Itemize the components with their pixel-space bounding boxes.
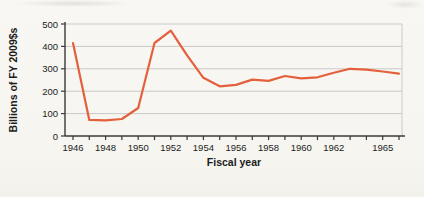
y-tick-label-200: 200 — [42, 86, 58, 97]
x-axis-tick-labels: 1946194819501952195419561958196019621965 — [62, 142, 393, 153]
x-tick-label-1960: 1960 — [291, 142, 312, 153]
data-line — [73, 31, 399, 121]
x-tick-label-1965: 1965 — [372, 142, 393, 153]
scanned-figure-page: 0100200300400500 19461948195019521954195… — [0, 0, 424, 197]
y-tick-label-300: 300 — [42, 63, 58, 74]
x-tick-label-1958: 1958 — [258, 142, 279, 153]
x-tick-label-1950: 1950 — [128, 142, 149, 153]
x-tick-label-1948: 1948 — [95, 142, 116, 153]
line-chart: 0100200300400500 19461948195019521954195… — [0, 0, 424, 197]
y-axis-tick-labels: 0100200300400500 — [42, 19, 58, 142]
x-axis-title: Fiscal year — [207, 156, 261, 168]
x-tick-label-1954: 1954 — [193, 142, 214, 153]
y-tick-label-400: 400 — [42, 41, 58, 52]
x-tick-label-1956: 1956 — [225, 142, 246, 153]
data-line-group — [73, 31, 399, 121]
x-tick-label-1946: 1946 — [62, 142, 83, 153]
x-tick-label-1962: 1962 — [323, 142, 344, 153]
x-tick-label-1952: 1952 — [160, 142, 181, 153]
y-axis-title: Billions of FY 2009$s — [7, 27, 19, 132]
y-tick-label-0: 0 — [53, 131, 58, 142]
y-tick-label-500: 500 — [42, 19, 58, 30]
y-tick-label-100: 100 — [42, 108, 58, 119]
